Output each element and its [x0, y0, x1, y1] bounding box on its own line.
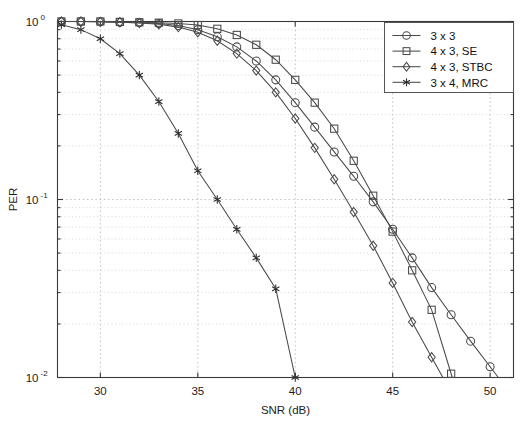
x-tick-label: 35 — [191, 385, 204, 397]
y-tick-base: 10 — [26, 16, 39, 28]
data-point-marker-star — [272, 285, 279, 293]
legend-label: 4 x 3, STBC — [431, 61, 493, 73]
y-tick-label: 10-2 — [26, 369, 48, 384]
x-axis-title: SNR (dB) — [261, 404, 310, 416]
y-tick-exponent: -1 — [41, 191, 49, 200]
y-tick-label: 10-1 — [26, 191, 48, 206]
y-axis-title: PER — [7, 188, 19, 212]
series-line — [61, 25, 295, 378]
figure-container: 303540455010010-110-2SNR (dB)PER 3 x 34 … — [0, 0, 531, 435]
series-4 — [58, 20, 299, 381]
x-tick-label: 45 — [386, 385, 399, 397]
y-tick-label: 100 — [26, 13, 46, 28]
y-tick-base: 10 — [26, 372, 39, 384]
chart-legend[interactable]: 3 x 34 x 3, SE4 x 3, STBC3 x 4, MRC — [385, 23, 514, 93]
x-tick-label: 40 — [289, 385, 302, 397]
x-tick-label: 50 — [484, 385, 497, 397]
legend-label: 3 x 4, MRC — [431, 77, 489, 89]
y-tick-exponent: 0 — [41, 13, 46, 22]
per-vs-snr-chart: 303540455010010-110-2SNR (dB)PER 3 x 34 … — [0, 0, 531, 435]
x-tick-label: 30 — [94, 385, 107, 397]
data-point-marker-star — [175, 129, 182, 137]
y-tick-base: 10 — [26, 194, 39, 206]
legend-label: 4 x 3, SE — [431, 45, 478, 57]
y-tick-exponent: -2 — [41, 369, 49, 378]
legend-label: 3 x 3 — [431, 30, 456, 42]
